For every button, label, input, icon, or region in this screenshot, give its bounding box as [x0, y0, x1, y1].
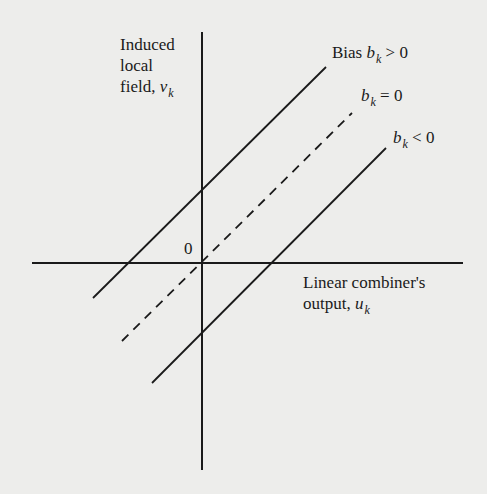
- y-axis-symbol: v: [160, 77, 168, 96]
- bias-subscript: k: [376, 52, 381, 66]
- bias-subscript: k: [371, 95, 376, 109]
- line-bias-negative: [152, 148, 386, 383]
- bias-relation: = 0: [376, 86, 403, 105]
- x-axis-symbol: u: [355, 294, 364, 313]
- bias-symbol: b: [366, 43, 375, 62]
- y-axis-label-line2: local: [120, 55, 175, 76]
- y-axis-label-text: field,: [120, 77, 160, 96]
- y-axis-subscript: k: [168, 86, 173, 100]
- bias-symbol: b: [361, 86, 370, 105]
- plot-area: [0, 0, 487, 494]
- bias-symbol: b: [393, 128, 402, 147]
- x-axis-label: Linear combiner's output, uk: [303, 272, 426, 316]
- x-axis-label-text: output,: [303, 294, 355, 313]
- y-axis-label-line1: Induced: [120, 34, 175, 55]
- bias-affine-diagram: Induced local field, vk Linear combiner'…: [0, 0, 487, 494]
- label-bias-positive: Bias bk > 0: [332, 43, 408, 64]
- origin-label: 0: [184, 239, 193, 259]
- bias-prefix: Bias: [332, 43, 366, 62]
- bias-relation: < 0: [408, 128, 435, 147]
- y-axis-label: Induced local field, vk: [120, 34, 175, 99]
- bias-relation: > 0: [381, 43, 408, 62]
- x-axis-label-line2: output, uk: [303, 293, 426, 316]
- x-axis-label-line1: Linear combiner's: [303, 272, 426, 293]
- x-axis-subscript: k: [364, 303, 369, 317]
- label-bias-negative: bk < 0: [393, 128, 434, 149]
- y-axis-label-line3: field, vk: [120, 76, 175, 99]
- bias-subscript: k: [403, 137, 408, 151]
- label-bias-zero: bk = 0: [361, 86, 402, 107]
